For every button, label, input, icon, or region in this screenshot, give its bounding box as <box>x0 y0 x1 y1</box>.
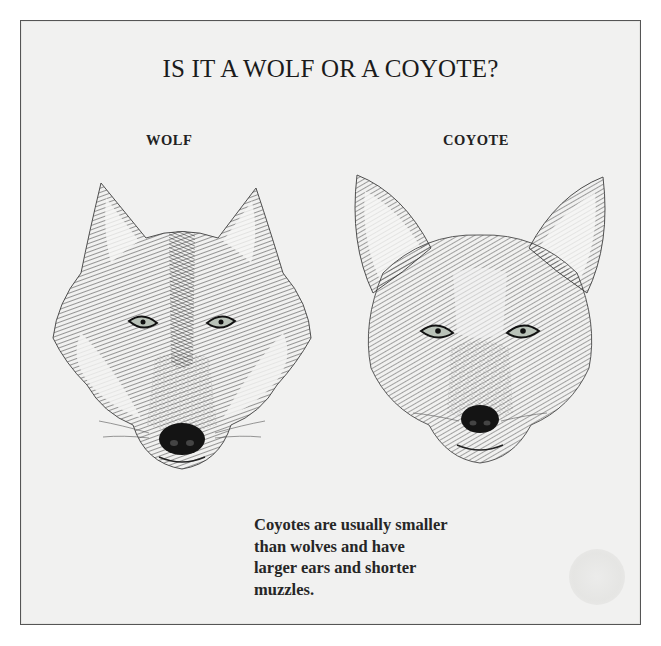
wolf-head-illustration <box>51 163 313 471</box>
wolf-label: WOLF <box>146 132 192 149</box>
caption-line: larger ears and shorter <box>254 557 484 579</box>
coyote-head-illustration <box>343 163 617 471</box>
caption-line: muzzles. <box>254 579 484 601</box>
caption-line: than wolves and have <box>254 536 484 558</box>
caption: Coyotes are usually smaller than wolves … <box>254 514 484 600</box>
coyote-label: COYOTE <box>443 132 509 149</box>
page-title: IS IT A WOLF OR A COYOTE? <box>21 55 640 83</box>
paper-stain <box>569 549 625 605</box>
book-page: IS IT A WOLF OR A COYOTE? WOLF COYOTE <box>20 20 641 625</box>
caption-line: Coyotes are usually smaller <box>254 514 484 536</box>
